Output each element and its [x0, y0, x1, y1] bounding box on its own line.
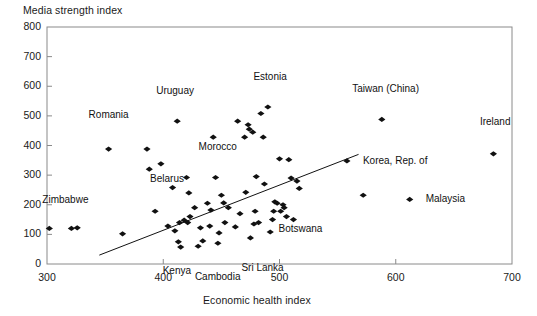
data-point — [143, 146, 150, 151]
point-label-romania: Romania — [89, 109, 129, 120]
data-point — [290, 217, 297, 222]
data-point — [210, 135, 217, 140]
data-points — [46, 104, 497, 249]
data-point — [253, 174, 260, 179]
data-point — [234, 119, 241, 124]
point-label-sri-lanka: Sri Lanka — [241, 262, 283, 273]
data-point — [215, 230, 222, 235]
data-point — [276, 156, 283, 161]
point-label-kenya: Kenya — [163, 265, 191, 276]
data-point — [212, 175, 219, 180]
point-label-estonia: Estonia — [253, 71, 286, 82]
data-point — [195, 244, 202, 249]
data-point — [360, 193, 367, 198]
point-label-botswana: Botswana — [278, 223, 322, 234]
point-label-ireland: Ireland — [480, 116, 511, 127]
data-point — [157, 161, 164, 166]
data-point — [214, 241, 221, 246]
data-point — [175, 239, 182, 244]
data-point — [378, 117, 385, 122]
data-point — [236, 211, 243, 216]
data-point — [105, 146, 112, 151]
data-point — [261, 181, 268, 186]
data-point — [177, 245, 184, 250]
data-point — [174, 119, 181, 124]
data-point — [247, 235, 254, 240]
data-point — [152, 209, 159, 214]
data-point — [260, 135, 267, 140]
data-point — [220, 200, 227, 205]
data-point — [343, 158, 350, 163]
trend-line — [99, 154, 358, 255]
data-point — [74, 225, 81, 230]
data-point — [241, 135, 248, 140]
data-point — [197, 225, 204, 230]
data-point — [270, 209, 277, 214]
data-point — [264, 104, 271, 109]
point-label-taiwan-china: Taiwan (China) — [352, 83, 419, 94]
point-label-cambodia: Cambodia — [195, 271, 241, 282]
data-point — [269, 217, 276, 222]
data-point — [245, 122, 252, 127]
point-label-malaysia: Malaysia — [426, 193, 465, 204]
data-point — [68, 226, 75, 231]
point-label-belarus: Belarus — [150, 173, 184, 184]
data-point — [119, 231, 126, 236]
data-point — [285, 157, 292, 162]
scatter-chart: Media strength index Economic health ind… — [0, 0, 537, 316]
data-point — [191, 205, 198, 210]
data-point — [218, 193, 225, 198]
point-label-zimbabwe: Zimbabwe — [42, 194, 88, 205]
data-point — [257, 111, 264, 116]
data-point — [146, 167, 153, 172]
data-point — [296, 186, 303, 191]
data-point — [221, 220, 228, 225]
data-point — [206, 223, 213, 228]
data-point — [267, 229, 274, 234]
data-point — [406, 197, 413, 202]
data-point — [204, 201, 211, 206]
data-point — [232, 224, 239, 229]
point-label-uruguay: Uruguay — [156, 85, 194, 96]
data-point — [185, 190, 192, 195]
data-point — [169, 185, 176, 190]
data-point — [283, 214, 290, 219]
point-label-morocco: Morocco — [199, 141, 237, 152]
data-point — [490, 151, 497, 156]
data-point — [251, 209, 258, 214]
point-label-korea-rep-of: Korea, Rep. of — [363, 155, 427, 166]
data-point — [207, 207, 214, 212]
data-point — [199, 238, 206, 243]
data-point — [242, 190, 249, 195]
data-point — [171, 228, 178, 233]
